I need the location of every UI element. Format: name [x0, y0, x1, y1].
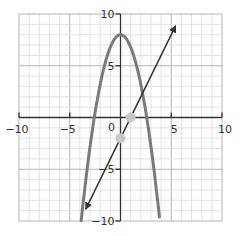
x-tick-label: −10 [5, 123, 28, 136]
intercept-y-point [116, 133, 126, 143]
y-tick-label: 10 [101, 8, 115, 21]
y-tick-label: −5 [98, 163, 114, 176]
x-tick-label: 5 [171, 123, 178, 136]
y-tick-label: −10 [91, 215, 114, 228]
x-tick-label: 0 [108, 121, 115, 134]
x-tick-label: 10 [218, 123, 232, 136]
x-tick-label: −5 [60, 123, 76, 136]
intersection-x-point [126, 113, 136, 123]
coordinate-plane-chart: −10−50510105−5−10 [0, 0, 244, 236]
y-tick-label: 5 [108, 60, 115, 73]
